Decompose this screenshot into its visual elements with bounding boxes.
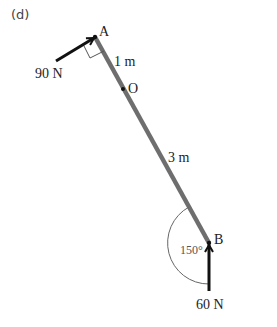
force-diagram: A O B 1 m 3 m 90 N 60 N 150° (0, 0, 277, 327)
segment-ao-length: 1 m (114, 54, 136, 69)
force-90n-label: 90 N (35, 66, 63, 81)
rod (95, 37, 209, 243)
point-o-dot (121, 87, 125, 91)
force-arrow-90n (56, 38, 94, 61)
force-60n-label: 60 N (196, 297, 224, 312)
point-b-dot (207, 241, 211, 245)
point-a-dot (93, 35, 97, 39)
point-a-label: A (99, 24, 110, 39)
angle-label: 150° (180, 243, 203, 257)
segment-ob-length: 3 m (168, 150, 190, 165)
point-b-label: B (214, 232, 223, 247)
point-o-label: O (128, 81, 138, 96)
